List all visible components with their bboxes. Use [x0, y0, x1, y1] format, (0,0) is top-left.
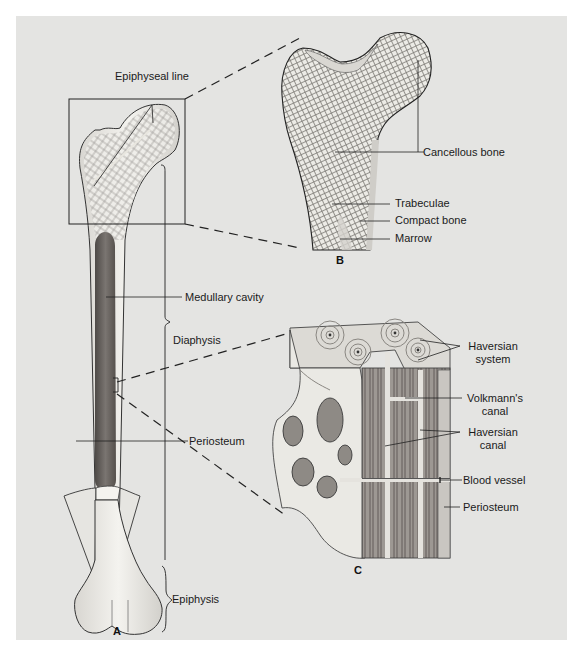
label-medullary-cavity: Medullary cavity: [185, 291, 264, 304]
panel-label-c: C: [354, 564, 362, 576]
label-volkmanns-canal: Volkmann's canal: [462, 392, 528, 418]
label-blood-vessel: Blood vessel: [463, 474, 525, 487]
label-volkmanns-canal-line1: Volkmann's: [462, 392, 528, 405]
label-haversian-system: Haversian system: [462, 340, 524, 366]
label-diaphysis: Diaphysis: [173, 334, 221, 347]
panel-label-b: B: [336, 254, 344, 266]
label-periosteum-a: Periosteum: [189, 435, 245, 448]
panel-label-a: A: [113, 625, 121, 637]
label-haversian-system-line1: Haversian: [462, 340, 524, 353]
label-periosteum-c: Periosteum: [463, 501, 519, 514]
bone-illustration: [0, 0, 582, 653]
label-haversian-canal-line2: canal: [462, 439, 524, 452]
label-haversian-canal-line1: Haversian: [462, 426, 524, 439]
label-haversian-system-line2: system: [462, 353, 524, 366]
label-cancellous-bone: Cancellous bone: [423, 146, 505, 159]
label-epiphysis: Epiphysis: [172, 593, 219, 606]
label-trabeculae: Trabeculae: [395, 197, 450, 210]
label-haversian-canal: Haversian canal: [462, 426, 524, 452]
label-compact-bone: Compact bone: [395, 214, 467, 227]
label-volkmanns-canal-line2: canal: [462, 405, 528, 418]
label-marrow: Marrow: [395, 232, 432, 245]
label-epiphyseal-line: Epiphyseal line: [115, 70, 189, 83]
